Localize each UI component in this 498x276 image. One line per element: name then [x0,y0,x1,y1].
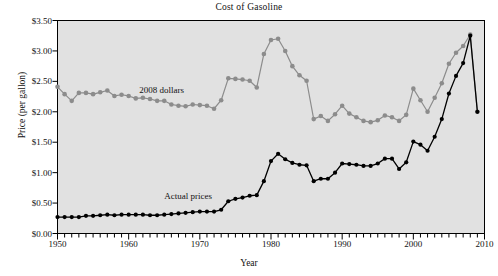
data-point [475,110,479,114]
data-point [226,76,231,81]
data-point [205,103,210,108]
data-point [369,164,373,168]
data-point [176,103,181,108]
data-point [141,213,145,217]
data-point [319,177,323,181]
data-point [162,99,167,104]
data-point [361,164,365,168]
data-point [404,160,408,164]
y-tick-label: $3.50 [12,16,52,26]
data-point [212,209,216,213]
data-point [183,104,188,109]
x-tick-label: 2010 [462,239,498,249]
data-point [290,64,295,69]
gasoline-cost-chart: Cost of Gasoline Price (per gallon) Year… [0,0,498,276]
data-point [198,103,203,108]
y-tick-label: $2.00 [12,107,52,117]
data-point [84,214,88,218]
data-point [433,135,437,139]
data-point [63,215,67,219]
data-point [418,98,423,103]
data-point [91,92,96,97]
data-point [62,92,67,97]
data-point [141,95,146,100]
data-point [248,194,252,198]
y-tick-label: $1.00 [12,168,52,178]
data-point [55,215,59,219]
y-tick-label: $0.50 [12,198,52,208]
data-point [447,91,451,95]
data-point [255,193,259,197]
data-point [169,212,173,216]
data-point [368,120,373,125]
data-point [198,209,202,213]
x-tick-label: 2000 [390,239,436,249]
data-point [390,115,395,120]
data-point [454,50,459,55]
data-point [340,103,345,108]
data-point [148,97,153,102]
data-point [376,161,380,165]
x-axis-tick-labels: 1950196019701980199020002010 [0,239,498,255]
series-label-actual: Actual prices [164,191,212,201]
data-point [326,119,331,124]
data-point [105,88,110,93]
data-point [112,94,117,99]
data-point [190,102,195,107]
data-point [304,78,309,83]
data-point [312,179,316,183]
data-point [262,179,266,183]
data-point [233,77,238,82]
data-point [354,115,359,120]
data-point [91,214,95,218]
data-point [205,209,209,213]
data-point [447,61,452,66]
data-point [269,38,274,43]
data-point [155,99,160,104]
data-point [98,90,103,95]
data-point [148,213,152,217]
data-point [247,78,252,83]
data-point [233,197,237,201]
chart-title: Cost of Gasoline [0,2,498,12]
y-tick-label: $3.00 [12,46,52,56]
data-point [84,91,89,96]
x-axis-label: Year [0,258,498,268]
data-point [418,143,422,147]
x-tick-label: 1960 [106,239,152,249]
data-point [326,177,330,181]
data-point [176,211,180,215]
data-point [283,157,287,161]
data-point [169,102,174,107]
data-point [276,36,281,41]
data-point [404,113,409,118]
data-point [276,152,280,156]
data-point [70,215,74,219]
data-point [226,199,230,203]
data-point [297,163,301,167]
y-tick-label: $1.50 [12,137,52,147]
data-point [440,81,445,86]
data-point [340,161,344,165]
data-point [119,92,124,97]
data-point [383,113,388,118]
data-point [69,99,74,104]
data-point [290,161,294,165]
data-point [390,157,394,161]
data-point [333,171,337,175]
data-point [126,94,131,99]
data-point [425,109,430,114]
data-point [333,112,338,117]
data-point [98,213,102,217]
data-point [432,95,437,100]
data-point [191,210,195,214]
data-point [411,86,416,91]
data-point [461,44,466,49]
data-point [397,167,401,171]
data-point [212,106,217,111]
data-point [283,49,288,54]
x-tick-label: 1970 [177,239,223,249]
data-point [254,85,259,90]
data-point [127,213,131,217]
data-point [77,215,81,219]
